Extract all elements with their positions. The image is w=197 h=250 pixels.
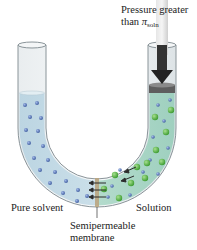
- pressure-label-line2: than πsoln: [121, 16, 159, 31]
- osmotic-pressure-subscript: soln: [147, 21, 159, 29]
- pure-solvent-label: Pure solvent: [11, 202, 63, 213]
- membrane-label-line2: membrane: [70, 232, 114, 243]
- pressure-label-line1: Pressure greater: [121, 4, 188, 15]
- semipermeable-membrane: [95, 178, 99, 207]
- membrane-label-line1: Semipermeable: [70, 220, 135, 231]
- pressure-label-prefix: than: [121, 16, 142, 27]
- solution-label: Solution: [136, 202, 172, 213]
